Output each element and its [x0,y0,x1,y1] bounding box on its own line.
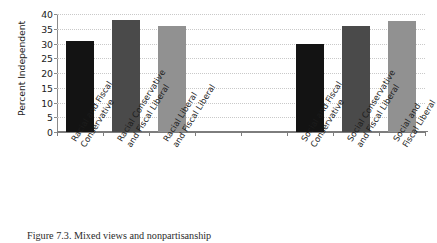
x-tick-mark [425,132,426,136]
y-tick-mark [54,103,57,104]
y-tick-label: 40 [41,9,53,20]
y-tick-label: 25 [41,53,53,64]
x-tick-mark [379,132,380,136]
y-tick-mark [54,14,57,15]
y-tick-label: 30 [41,38,53,49]
y-tick-label: 15 [41,82,53,93]
y-tick-mark [54,44,57,45]
x-tick-mark [57,132,58,136]
x-tick-mark [241,132,242,136]
y-tick-mark [54,29,57,30]
x-tick-mark [287,132,288,136]
gridline [57,14,425,15]
y-tick-label: 0 [47,127,53,138]
y-tick-label: 5 [47,112,53,123]
y-tick-label: 35 [41,23,53,34]
x-tick-mark [195,132,196,136]
y-tick-label: 10 [41,97,53,108]
y-tick-mark [54,73,57,74]
y-tick-mark [54,88,57,89]
x-tick-mark [103,132,104,136]
figure-caption: Figure 7.3. Mixed views and nonpartisans… [27,230,211,241]
x-tick-mark [149,132,150,136]
y-tick-mark [54,117,57,118]
x-tick-mark [333,132,334,136]
y-tick-label: 20 [41,68,53,79]
y-tick-mark [54,58,57,59]
y-axis-title: Percent Independent [16,9,27,129]
